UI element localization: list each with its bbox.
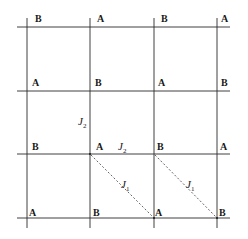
site-label: A (97, 13, 105, 24)
site-label: A (29, 207, 37, 218)
site-label: B (95, 77, 102, 88)
junction-dot (153, 217, 155, 219)
lattice-diagram: B A B A A B A B B A B A A B A B J2 J2 J1… (0, 0, 248, 239)
site-label: B (219, 207, 226, 218)
site-label: A (220, 141, 228, 152)
j1-left-label: J1 (121, 178, 130, 193)
junction-dot (216, 217, 218, 219)
j1-bonds (91, 155, 216, 217)
site-label: B (161, 13, 168, 24)
site-label: B (221, 77, 228, 88)
site-label: B (157, 141, 164, 152)
grid-lines (17, 18, 230, 228)
site-label: A (155, 207, 163, 218)
j2-horizontal-label: J2 (118, 140, 127, 155)
site-label: A (96, 141, 104, 152)
junction-dot (89, 153, 91, 155)
site-label: A (32, 77, 40, 88)
j2-vertical-label: J2 (78, 115, 87, 130)
site-label: B (35, 13, 42, 24)
site-label: A (221, 13, 229, 24)
j1-right-label: J1 (186, 178, 195, 193)
site-label: B (93, 207, 100, 218)
site-label: B (32, 141, 39, 152)
junction-dots (89, 153, 218, 219)
site-label: A (158, 77, 166, 88)
